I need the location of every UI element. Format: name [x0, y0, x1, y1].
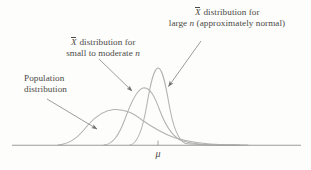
label-xbar-small-moderate-n-line1: X distribution for — [46, 37, 160, 48]
arrow-to-small-n — [99, 59, 132, 91]
label-xbar-large-n-line2: large n (approximately normal) — [152, 18, 302, 29]
overbar — [71, 37, 77, 38]
label-xbar-small-moderate-n-line2: small to moderate n — [46, 48, 160, 59]
label-xbar-small-moderate-n-line1-rest: distribution for — [77, 37, 136, 47]
arrow-to-population — [47, 99, 97, 129]
overbar — [195, 7, 201, 8]
x-bar-symbol: X — [194, 7, 201, 17]
sampling-distribution-figure: X distribution for large n (approximatel… — [0, 0, 311, 170]
label-xbar-large-n-line1-rest: distribution for — [201, 7, 260, 17]
label-xbar-small-moderate-n: X distribution for small to moderate n — [46, 37, 160, 59]
label-population-line1: Population — [24, 73, 67, 84]
label-population-line2: distribution — [24, 84, 67, 95]
sample-size-variable: n — [135, 48, 140, 58]
curve-xbar-large-n — [130, 68, 240, 145]
curve-population-distribution — [58, 109, 248, 145]
label-population-distribution: Population distribution — [24, 73, 67, 95]
x-bar-symbol: X — [70, 37, 77, 47]
label-xbar-large-n: X distribution for large n (approximatel… — [152, 7, 302, 29]
label-xbar-large-n-line1: X distribution for — [152, 7, 302, 18]
mu-axis-label: μ — [150, 148, 166, 159]
arrow-to-large-n — [169, 41, 202, 87]
